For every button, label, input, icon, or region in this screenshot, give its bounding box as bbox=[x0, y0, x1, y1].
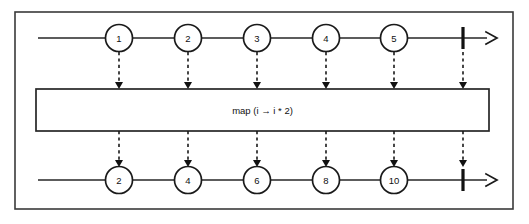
result-marble[interactable]: 6 bbox=[244, 167, 271, 194]
result-marble[interactable]: 10 bbox=[381, 167, 408, 194]
result-marble[interactable]: 4 bbox=[175, 167, 202, 194]
source-marble-label-1: 2 bbox=[185, 33, 190, 44]
marble-diagram-root: 12345 map (i → i * 2) 246810 bbox=[0, 0, 529, 224]
source-marble-label-0: 1 bbox=[116, 33, 121, 44]
map-operator-label: map (i → i * 2) bbox=[232, 105, 293, 116]
result-marble[interactable]: 2 bbox=[106, 167, 133, 194]
source-marble[interactable]: 2 bbox=[175, 25, 202, 52]
source-marble[interactable]: 4 bbox=[313, 25, 340, 52]
source-marble[interactable]: 1 bbox=[106, 25, 133, 52]
result-marble-label-2: 6 bbox=[254, 175, 259, 186]
result-marble-label-3: 8 bbox=[323, 175, 328, 186]
marble-diagram-canvas: 12345 map (i → i * 2) 246810 bbox=[0, 0, 529, 224]
source-marble[interactable]: 3 bbox=[244, 25, 271, 52]
source-marble-label-3: 4 bbox=[323, 33, 328, 44]
result-marble[interactable]: 8 bbox=[313, 167, 340, 194]
result-marble-label-0: 2 bbox=[116, 175, 121, 186]
source-marble-label-2: 3 bbox=[254, 33, 259, 44]
source-marble[interactable]: 5 bbox=[381, 25, 408, 52]
result-marble-label-4: 10 bbox=[389, 175, 400, 186]
source-marble-label-4: 5 bbox=[391, 33, 396, 44]
result-marble-label-1: 4 bbox=[185, 175, 190, 186]
